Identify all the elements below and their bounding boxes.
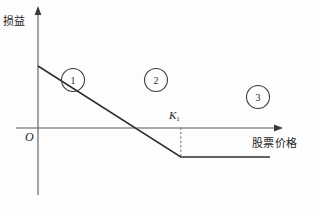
payoff-diagram-figure: 损益 股票价格 O K1 1 2 3 <box>0 0 313 209</box>
y-axis-label: 损益 <box>3 16 26 27</box>
strike-price-label: K1 <box>169 110 180 121</box>
region-marker-label-1: 1 <box>62 76 84 86</box>
x-axis-arrowhead <box>274 125 283 132</box>
plot-canvas <box>0 0 313 209</box>
region-marker-label-2: 2 <box>145 76 167 86</box>
y-axis-arrowhead <box>35 6 42 15</box>
origin-label: O <box>25 131 34 143</box>
region-marker-label-3: 3 <box>247 93 269 103</box>
x-axis-label: 股票价格 <box>252 138 297 149</box>
strike-subscript: 1 <box>176 115 180 123</box>
